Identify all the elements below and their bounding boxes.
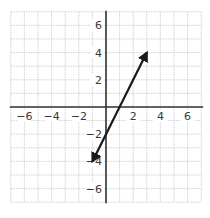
x-tick-label: −4 <box>43 110 59 123</box>
y-tick-label: 6 <box>95 19 102 32</box>
y-tick-label: 4 <box>95 47 102 60</box>
x-tick-label: −6 <box>16 110 32 123</box>
x-tick-label: −2 <box>71 110 87 123</box>
x-tick-label: 6 <box>184 110 191 123</box>
y-tick-label: 2 <box>95 74 102 87</box>
coordinate-plane: −6−4−2246−6−4−2246 <box>0 0 210 218</box>
y-tick-label: −6 <box>86 183 102 196</box>
x-tick-label: 2 <box>130 110 137 123</box>
x-tick-label: 4 <box>157 110 164 123</box>
y-tick-label: −2 <box>86 128 102 141</box>
